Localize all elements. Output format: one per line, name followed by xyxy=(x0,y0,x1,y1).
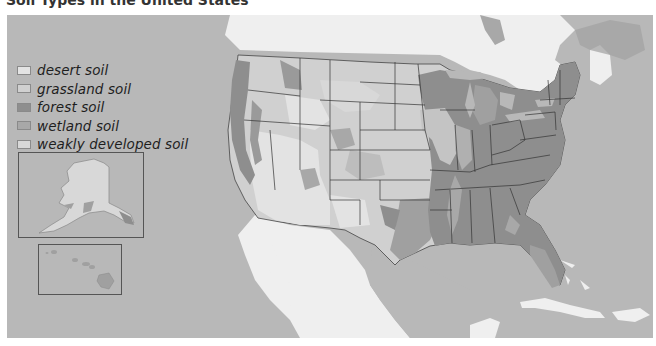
legend-item-desert-soil: desert soil xyxy=(17,61,188,80)
legend-item-forest-soil: forest soil xyxy=(17,98,188,117)
alaska-map xyxy=(19,153,143,237)
swatch-grassland-soil xyxy=(17,84,31,93)
hawaii-inset xyxy=(38,244,122,295)
swatch-desert-soil xyxy=(17,66,31,75)
swatch-weakly-developed-soil xyxy=(17,140,31,149)
legend-item-wetland-soil: wetland soil xyxy=(17,117,188,136)
map-title: Soil Types in the United States xyxy=(6,0,249,8)
legend-item-grassland-soil: grassland soil xyxy=(17,80,188,99)
alaska-inset xyxy=(18,152,144,238)
legend: desert soil grassland soil forest soil w… xyxy=(17,61,188,154)
legend-label: wetland soil xyxy=(37,118,119,134)
legend-label: weakly developed soil xyxy=(37,136,188,152)
swatch-forest-soil xyxy=(17,103,31,112)
legend-label: grassland soil xyxy=(37,81,131,97)
legend-label: forest soil xyxy=(37,99,104,115)
swatch-wetland-soil xyxy=(17,121,31,130)
legend-label: desert soil xyxy=(37,62,108,78)
hawaii-map xyxy=(39,245,121,294)
legend-item-weakly-developed-soil: weakly developed soil xyxy=(17,135,188,154)
